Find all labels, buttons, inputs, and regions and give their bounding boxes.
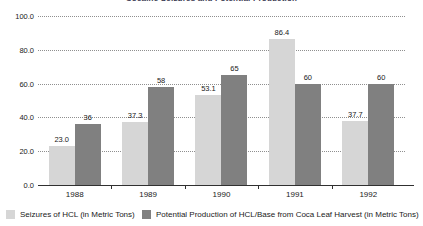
bar-group: 37.358 — [111, 16, 184, 185]
bar-value-label: 37.3 — [128, 111, 143, 120]
legend-item[interactable]: Seizures of HCL (in Metric Tons) — [6, 210, 135, 219]
bar-value-label: 37.7 — [348, 110, 363, 119]
y-axis-tick-label: 40.0 — [19, 113, 34, 122]
bar[interactable] — [195, 95, 221, 185]
bar-group: 86.460 — [258, 16, 331, 185]
x-axis-tick — [111, 185, 112, 189]
y-axis-tick-label: 80.0 — [19, 45, 34, 54]
bar-group: 53.165 — [185, 16, 258, 185]
y-axis-tick-label: 20.0 — [19, 147, 34, 156]
x-axis-category-label: 1992 — [359, 190, 377, 199]
bar[interactable] — [221, 75, 247, 185]
x-axis-category-label: 1991 — [286, 190, 304, 199]
bar[interactable] — [342, 121, 368, 185]
legend-label: Seizures of HCL (in Metric Tons) — [20, 211, 135, 219]
plot-area: 23.03637.35853.16586.46037.760 — [38, 16, 405, 185]
chart-legend: Seizures of HCL (in Metric Tons)Potentia… — [0, 206, 423, 226]
x-axis-category-label: 1990 — [213, 190, 231, 199]
x-axis-category-label: 1989 — [139, 190, 157, 199]
bar-value-label: 86.4 — [275, 28, 290, 37]
bar-value-label: 60 — [377, 73, 385, 82]
bar-value-label: 53.1 — [201, 84, 216, 93]
x-axis-tick — [258, 185, 259, 189]
bar-value-label: 65 — [230, 64, 238, 73]
x-axis-tick — [185, 185, 186, 189]
bar-value-label: 58 — [157, 76, 165, 85]
bar-value-label: 36 — [84, 113, 92, 122]
y-axis-tick-label: 100.0 — [15, 12, 34, 21]
legend-item[interactable]: Potential Production of HCL/Base from Co… — [142, 210, 419, 219]
legend-color-swatch — [142, 210, 151, 219]
x-axis-tick — [332, 185, 333, 189]
bar-value-label: 23.0 — [54, 135, 69, 144]
x-axis: 19881989199019911992 — [38, 185, 414, 205]
bar-chart: Cocaine Seizures and Potential Productio… — [0, 0, 423, 226]
chart-title: Cocaine Seizures and Potential Productio… — [0, 0, 423, 1]
bar[interactable] — [122, 122, 148, 185]
x-axis-category-label: 1988 — [66, 190, 84, 199]
bar-group: 37.760 — [332, 16, 405, 185]
bar-group: 23.036 — [38, 16, 111, 185]
y-axis-labels: 0.020.040.060.080.0100.0 — [0, 16, 34, 185]
legend-label: Potential Production of HCL/Base from Co… — [156, 211, 419, 219]
legend-color-swatch — [6, 210, 15, 219]
y-axis-tick-label: 60.0 — [19, 79, 34, 88]
y-axis-tick-label: 0.0 — [24, 181, 34, 190]
bar[interactable] — [148, 87, 174, 185]
bar[interactable] — [49, 146, 75, 185]
bar[interactable] — [368, 84, 394, 185]
bar[interactable] — [295, 84, 321, 185]
bar[interactable] — [75, 124, 101, 185]
bar-value-label: 60 — [304, 73, 312, 82]
bar[interactable] — [269, 39, 295, 185]
